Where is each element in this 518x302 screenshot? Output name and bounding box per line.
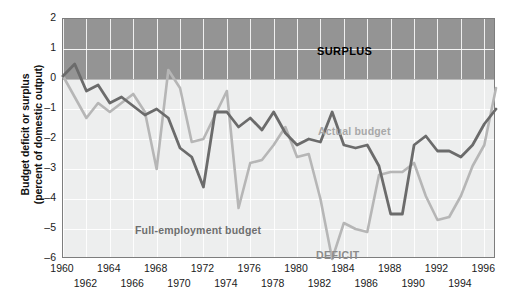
x-tick-1994: 1994 (448, 277, 471, 289)
y-tick-2: 2 (10, 11, 56, 23)
y-tick-neg4: –4 (10, 191, 56, 203)
x-tick-1992: 1992 (425, 262, 448, 274)
x-tick-1966: 1966 (121, 277, 144, 289)
y-tick-1: 1 (10, 41, 56, 53)
y-tick-neg3: –3 (10, 161, 56, 173)
x-tick-1980: 1980 (284, 262, 307, 274)
budget-deficit-surplus-chart: Budget deficit or surplus (percent of do… (0, 0, 518, 302)
x-tick-1988: 1988 (378, 262, 401, 274)
x-tick-1968: 1968 (144, 262, 167, 274)
x-tick-1974: 1974 (214, 277, 237, 289)
x-tick-1996: 1996 (472, 262, 495, 274)
y-tick-neg5: –5 (10, 221, 56, 233)
deficit-label: DEFICIT (316, 249, 360, 261)
y-axis-tick-labels: 210–1–2–3–4–5–6 (4, 0, 56, 302)
surplus-label: SURPLUS (317, 45, 372, 57)
x-tick-1962: 1962 (74, 277, 97, 289)
x-tick-1986: 1986 (355, 277, 378, 289)
full-employment-budget-label: Full-employment budget (135, 224, 261, 236)
y-tick-neg1: –1 (10, 101, 56, 113)
full-employment-budget-line (63, 64, 496, 214)
x-tick-1982: 1982 (308, 277, 331, 289)
series-lines (63, 19, 496, 259)
x-tick-1978: 1978 (261, 277, 284, 289)
x-tick-1964: 1964 (97, 262, 120, 274)
x-axis-tick-labels: 1960196419681972197619801984198819921996… (0, 262, 518, 302)
y-tick-0: 0 (10, 71, 56, 83)
x-tick-1960: 1960 (50, 262, 73, 274)
x-tick-1990: 1990 (401, 277, 424, 289)
x-tick-1976: 1976 (238, 262, 261, 274)
x-tick-1972: 1972 (191, 262, 214, 274)
plot-area: SURPLUS DEFICIT Actual budget Full-emplo… (62, 18, 495, 258)
actual-budget-line (63, 70, 496, 259)
x-tick-1984: 1984 (331, 262, 354, 274)
actual-budget-label: Actual budget (318, 125, 391, 137)
y-tick-neg2: –2 (10, 131, 56, 143)
x-tick-1970: 1970 (167, 277, 190, 289)
